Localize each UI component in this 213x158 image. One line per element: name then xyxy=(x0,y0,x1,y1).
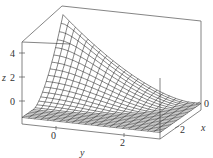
x-tick-2: 2 xyxy=(180,124,185,135)
z-axis-label: z xyxy=(1,72,6,83)
z-tick-2: 2 xyxy=(10,72,15,83)
x-tick-0: 0 xyxy=(204,98,209,109)
y-axis-label: y xyxy=(79,147,85,158)
z-tick-4: 4 xyxy=(10,48,15,59)
y-tick-0: 0 xyxy=(51,130,56,141)
x-axis-label: x xyxy=(200,122,206,133)
surface-plot: 4 2 0 z 0 2 y 0 2 x xyxy=(0,0,213,158)
y-tick-2: 2 xyxy=(120,137,125,148)
z-tick-0: 0 xyxy=(10,96,15,107)
surface-mesh xyxy=(22,15,201,133)
